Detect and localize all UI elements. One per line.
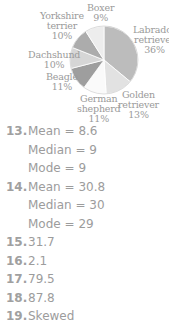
label-beagle: Beagle 11% [46, 72, 78, 92]
answer-text: Mode = 9 [28, 159, 86, 177]
answer-text: 79.5 [28, 270, 55, 288]
label-boxer-pct: 9% [87, 13, 114, 23]
label-dachshund-pct: 10% [28, 60, 80, 70]
answer-text: Mean = 8.6 [28, 122, 97, 140]
label-golden-retriever: Golden retriever 13% [118, 90, 159, 120]
label-golden-pct: 13% [118, 110, 159, 120]
answer-number: 17. [6, 270, 28, 288]
answer-text: 31.7 [28, 233, 55, 251]
answer-number: 18. [6, 289, 28, 307]
label-yorkshire-pct: 10% [40, 31, 84, 41]
answer-text: 87.8 [28, 289, 55, 307]
answer-text: Median = 30 [28, 196, 105, 214]
answer-text: Median = 9 [28, 141, 97, 159]
answer-text: Mean = 30.8 [28, 178, 105, 196]
label-beagle-pct: 11% [46, 82, 78, 92]
answer-number: 19. [6, 307, 28, 325]
answer-number: 14. [6, 178, 28, 196]
label-yorkshire-terrier: Yorkshire terrier 10% [40, 11, 84, 41]
answer-text: Skewed [28, 307, 74, 325]
answer-text: 2.1 [28, 252, 47, 270]
label-boxer: Boxer 9% [87, 3, 114, 23]
answer-number: 16. [6, 252, 28, 270]
label-labrador-pct: 36% [133, 45, 169, 55]
dog-breed-pie-chart: Boxer 9% Yorkshire terrier 10% Labrador … [0, 0, 169, 120]
answer-text: Mode = 29 [28, 215, 94, 233]
answer-number: 13. [6, 122, 28, 140]
label-dachshund: Dachshund 10% [28, 50, 80, 70]
answer-number: 15. [6, 233, 28, 251]
label-labrador-retriever: Labrador retriever 36% [133, 25, 169, 55]
label-german-shepherd: German shepherd 11% [77, 94, 120, 124]
